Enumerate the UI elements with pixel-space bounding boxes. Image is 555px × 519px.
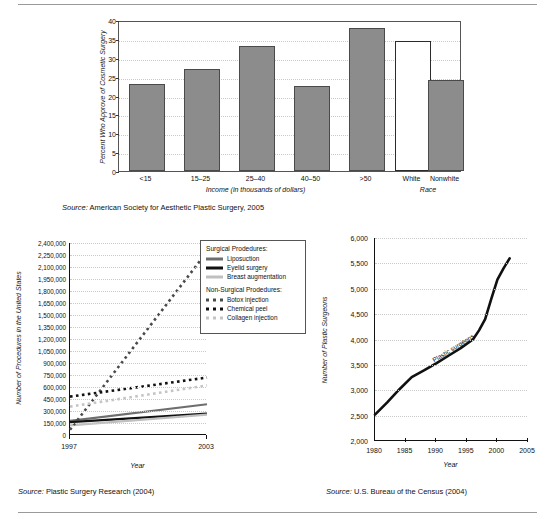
bar-chart-y-tick-mark — [116, 21, 119, 22]
legend-item-label: Chemical peel — [227, 305, 268, 312]
legend-item[interactable]: Chemical peel — [206, 304, 300, 313]
procedures-chart-source: Source: Plastic Surgery Research (2004) — [18, 487, 154, 496]
procedures-chart-series-line — [70, 385, 207, 406]
legend-item[interactable]: Breast augmentation — [206, 272, 300, 281]
procedures-chart-y-tick-label: 1,950,000 — [22, 276, 66, 283]
procedures-chart-source-prefix: Source: — [18, 487, 44, 496]
legend-item-label: Collagen injection — [227, 314, 277, 321]
surgeons-chart-y-tick-label: 3,000 — [336, 387, 368, 394]
bar-chart-y-tick-mark — [116, 115, 119, 116]
procedures-chart-y-tick-label: 150,000 — [22, 420, 66, 427]
procedures-chart-source-text: Plastic Surgery Research (2004) — [44, 487, 154, 496]
procedures-chart-gridline — [70, 423, 206, 424]
surgeons-chart-y-tick-label: 4,500 — [336, 311, 368, 318]
procedures-chart-gridline — [70, 303, 206, 304]
procedures-chart-gridline — [70, 411, 206, 412]
bar-chart-bar — [395, 41, 431, 171]
bar-chart-y-tick-label: 15 — [98, 112, 116, 119]
surgeons-chart-y-tick-label: 6,000 — [336, 235, 368, 242]
procedures-chart-gridline — [70, 375, 206, 376]
procedures-chart-gridline — [70, 243, 206, 244]
surgeons-chart-x-tick-label: 1985 — [397, 447, 413, 454]
bar-chart-y-tick-mark — [116, 97, 119, 98]
surgeons-chart-x-tick-mark — [496, 438, 497, 442]
surgeons-chart-y-tick-label: 3,500 — [336, 361, 368, 368]
surgeons-chart-x-tick-mark — [405, 438, 406, 442]
bar-chart-y-tick-mark — [116, 153, 119, 154]
bar-chart-bar — [294, 86, 330, 171]
procedures-chart-x-axis-title: Year — [69, 462, 206, 469]
surgeons-chart-gridline — [375, 263, 527, 264]
legend-line-solid-icon — [206, 275, 223, 278]
legend-item[interactable]: Botox injection — [206, 295, 300, 304]
legend-swatch-icon — [206, 272, 223, 281]
procedures-chart-y-tick-label: 1,200,000 — [22, 336, 66, 343]
legend-swatch-icon — [206, 295, 223, 304]
legend-item[interactable]: Eyelid surgery — [206, 263, 300, 272]
surgeons-chart-gridline — [375, 340, 527, 341]
bar-chart-x-axis-title-race: Race — [395, 186, 461, 193]
bar-chart-y-tick-label: 40 — [98, 18, 116, 25]
procedures-chart-gridline — [70, 267, 206, 268]
legend-item[interactable]: Collagen injection — [206, 313, 300, 322]
surgeons-chart-x-tick-mark — [466, 438, 467, 442]
bar-chart-plot-area — [118, 21, 461, 172]
procedures-chart-gridline — [70, 315, 206, 316]
surgeons-chart-gridline — [375, 314, 527, 315]
legend-item[interactable]: Liposuction — [206, 254, 300, 263]
surgeons-chart-plot-area — [374, 238, 527, 441]
surgeons-chart-gridline — [375, 365, 527, 366]
procedures-chart-legend: Surgical Prodedures:LiposuctionEyelid su… — [200, 240, 306, 334]
procedures-chart-gridline — [70, 327, 206, 328]
surgeons-chart-x-tick-mark — [527, 438, 528, 442]
procedures-chart-y-tick-label: 0 — [22, 432, 66, 439]
bar-chart-y-tick-label: 10 — [98, 131, 116, 138]
procedures-chart-x-tick-label: 2003 — [186, 443, 226, 450]
legend-line-dotted-icon — [206, 298, 223, 301]
procedures-chart-gridline — [70, 351, 206, 352]
top-divider — [18, 4, 537, 5]
procedures-chart-plot-area — [69, 243, 206, 435]
bar-chart-y-tick-mark — [116, 172, 119, 173]
procedures-chart-gridline — [70, 255, 206, 256]
legend-swatch-icon — [206, 313, 223, 322]
legend-group-heading: Non-Surgical Prodedures: — [206, 286, 300, 293]
surgeons-chart-y-tick-label: 5,500 — [336, 260, 368, 267]
surgeons-chart-gridline — [375, 289, 527, 290]
procedures-chart-y-tick-label: 450,000 — [22, 396, 66, 403]
bar-chart-x-axis-title-income: Income (in thousands of dollars) — [118, 186, 393, 193]
procedures-chart-gridline — [70, 291, 206, 292]
surgeons-chart-x-axis-title: Year — [374, 461, 527, 468]
procedures-chart-gridline — [70, 363, 206, 364]
surgeons-chart-x-tick-label: 1990 — [427, 447, 443, 454]
surgeons-chart-gridline — [375, 416, 527, 417]
bar-chart-y-ticks: 0510152025303540 — [98, 21, 116, 172]
procedures-chart-x-tick-label: 1997 — [49, 443, 89, 450]
surgeons-chart-y-tick-label: 4,000 — [336, 336, 368, 343]
bar-chart-y-tick-mark — [116, 59, 119, 60]
procedures-chart-y-tick-label: 2,250,000 — [22, 252, 66, 259]
surgeons-chart-y-tick-label: 2,500 — [336, 412, 368, 419]
procedures-chart-y-tick-label: 1,050,000 — [22, 348, 66, 355]
surgeons-chart-x-tick-label: 2000 — [489, 447, 505, 454]
legend-line-solid-icon — [206, 257, 223, 260]
procedures-chart-y-tick-label: 600,000 — [22, 384, 66, 391]
surgeons-chart-y-ticks: 2,0002,5003,0003,5004,0004,5005,0005,500… — [336, 238, 370, 441]
legend-swatch-icon — [206, 263, 223, 272]
bar-chart-y-tick-label: 5 — [98, 150, 116, 157]
bar-chart-source-text: American Society for Aesthetic Plastic S… — [88, 203, 264, 212]
bar-chart-bar — [349, 28, 385, 171]
bar-chart-bar — [239, 46, 275, 171]
surgeons-chart-x-tick-mark — [435, 438, 436, 442]
bar-chart-y-tick-label: 30 — [98, 55, 116, 62]
bar-chart-bar — [428, 80, 464, 171]
bar-chart-y-tick-label: 20 — [98, 93, 116, 100]
surgeons-chart-x-tick-label: 1995 — [458, 447, 474, 454]
legend-item-label: Breast augmentation — [227, 273, 286, 280]
bar-chart-y-tick-mark — [116, 134, 119, 135]
procedures-chart-gridline — [70, 387, 206, 388]
surgeons-chart-y-axis-title: Number of Plastic Surgeons — [318, 250, 330, 430]
legend-item-label: Botox injection — [227, 296, 269, 303]
bar-chart-source: Source: American Society for Aesthetic P… — [62, 203, 264, 212]
legend-line-dotted-icon — [206, 316, 223, 319]
